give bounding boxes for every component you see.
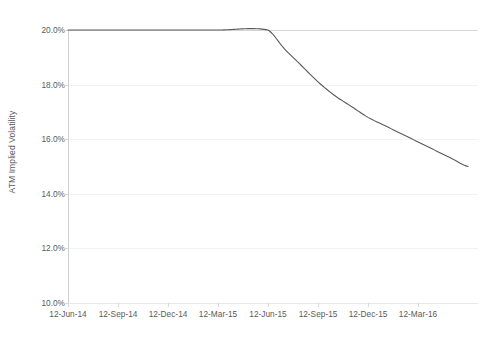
series-layer <box>0 0 483 342</box>
volatility-line <box>68 29 468 167</box>
chart-container: ATM Implied Volatility 20.0% 18.0% 16.0%… <box>0 0 483 342</box>
